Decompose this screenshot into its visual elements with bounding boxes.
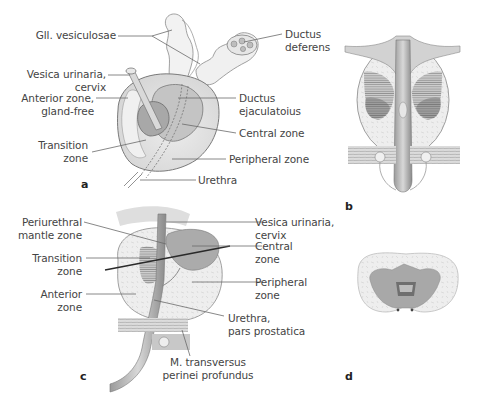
label-urethra-pars-prostatica: Urethra, pars prostatica <box>228 312 305 337</box>
label-anterior-zone-c: Anterior zone <box>0 288 82 313</box>
label-anterior-zone-a: Anterior zone, gland-free <box>0 92 94 117</box>
label-gll-vesiculosae: Gll. vesiculosae <box>18 29 116 42</box>
label-ductus-deferens: Ductus deferens <box>285 28 330 53</box>
label-urethra-a: Urethra <box>198 174 237 187</box>
label-transition-zone-a: Transition zone <box>0 139 88 164</box>
label-peripheral-zone-a: Peripheral zone <box>229 153 309 166</box>
panel-b-drawing <box>345 36 460 192</box>
label-vesica-urinaria-c: Vesica urinaria, cervix <box>255 216 334 241</box>
label-periurethral-mantle-zone: Periurethral mantle zone <box>0 216 82 241</box>
label-transition-zone-c: Transition zone <box>0 252 82 277</box>
label-ductus-ejaculatorius: Ductus ejaculatoius <box>239 92 301 117</box>
label-central-zone-c: Central zone <box>255 240 293 265</box>
label-m-transversus-perinei-profundus: M. transversus perinei profundus <box>158 356 258 381</box>
panel-label-b: b <box>345 200 353 213</box>
label-vesica-urinaria-a: Vesica urinaria, cervix <box>0 68 106 93</box>
prostate-zones-illustration <box>0 0 492 405</box>
panel-label-c: c <box>80 370 87 383</box>
panel-label-d: d <box>345 370 353 383</box>
label-peripheral-zone-c: Peripheral zone <box>255 276 307 301</box>
label-central-zone-a: Central zone <box>239 127 304 140</box>
panel-d-drawing <box>358 253 458 312</box>
panel-label-a: a <box>81 178 88 191</box>
